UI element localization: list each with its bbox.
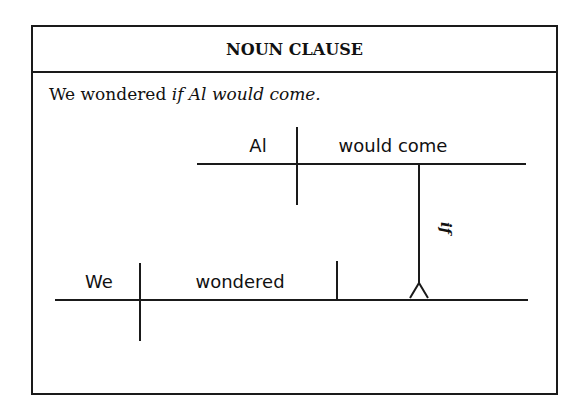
clause-verb: would come — [339, 135, 448, 156]
main-subject: We — [85, 271, 113, 292]
pedestal-base — [410, 283, 428, 298]
clause-connector: if — [437, 222, 455, 237]
main-verb: wondered — [195, 271, 284, 292]
clause-subject: Al — [249, 135, 266, 156]
sentence-diagram: Al would come if We wondered — [0, 0, 584, 408]
